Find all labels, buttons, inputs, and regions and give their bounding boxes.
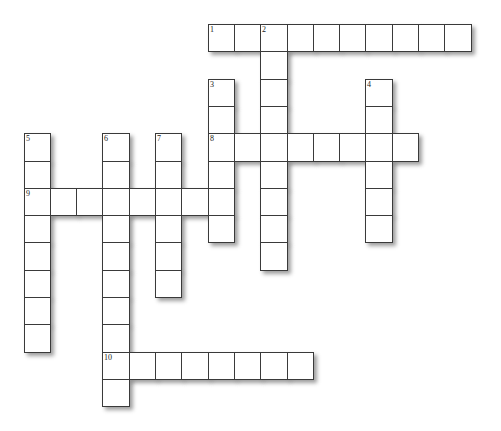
crossword-cell[interactable] <box>339 133 366 162</box>
crossword-cell[interactable] <box>260 215 288 243</box>
crossword-cell[interactable] <box>155 352 182 380</box>
crossword-cell[interactable] <box>24 161 51 189</box>
crossword-cell[interactable] <box>24 215 51 243</box>
crossword-cell[interactable] <box>24 324 51 353</box>
crossword-cell[interactable] <box>208 352 235 380</box>
crossword-cell[interactable] <box>208 24 235 52</box>
crossword-cell[interactable] <box>260 133 288 162</box>
crossword-cell[interactable] <box>365 215 393 243</box>
crossword-cell[interactable] <box>102 324 130 353</box>
crossword-cell[interactable] <box>102 270 130 298</box>
crossword-cell[interactable] <box>365 133 393 162</box>
crossword-cell[interactable] <box>208 215 235 243</box>
crossword-cell[interactable] <box>155 270 182 298</box>
crossword-cell[interactable] <box>155 242 182 271</box>
crossword-cell[interactable] <box>365 106 393 134</box>
crossword-cell[interactable] <box>260 352 288 380</box>
crossword-cell[interactable] <box>208 133 235 162</box>
crossword-cell[interactable] <box>260 79 288 107</box>
crossword-cell[interactable] <box>234 352 261 380</box>
crossword-cell[interactable] <box>24 188 51 216</box>
crossword-cell[interactable] <box>102 161 130 189</box>
crossword-grid: 12384596107 <box>0 0 501 431</box>
crossword-cell[interactable] <box>208 106 235 134</box>
crossword-cell[interactable] <box>392 24 419 52</box>
crossword-cell[interactable] <box>365 79 393 107</box>
crossword-cell[interactable] <box>181 188 209 216</box>
crossword-cell[interactable] <box>102 352 130 380</box>
crossword-cell[interactable] <box>155 161 182 189</box>
crossword-cell[interactable] <box>129 188 156 216</box>
crossword-cell[interactable] <box>102 215 130 243</box>
crossword-cell[interactable] <box>418 24 445 52</box>
crossword-cell[interactable] <box>155 188 182 216</box>
crossword-cell[interactable] <box>208 79 235 107</box>
crossword-cell[interactable] <box>234 24 261 52</box>
crossword-cell[interactable] <box>102 379 130 407</box>
crossword-cell[interactable] <box>444 24 472 52</box>
crossword-cell[interactable] <box>24 297 51 325</box>
crossword-cell[interactable] <box>339 24 366 52</box>
crossword-cell[interactable] <box>313 24 340 52</box>
crossword-cell[interactable] <box>234 133 261 162</box>
crossword-cell[interactable] <box>76 188 103 216</box>
crossword-cell[interactable] <box>208 188 235 216</box>
crossword-cell[interactable] <box>392 133 419 162</box>
crossword-cell[interactable] <box>208 161 235 189</box>
crossword-cell[interactable] <box>313 133 340 162</box>
crossword-cell[interactable] <box>260 106 288 134</box>
crossword-cell[interactable] <box>24 242 51 271</box>
crossword-cell[interactable] <box>102 297 130 325</box>
crossword-cell[interactable] <box>260 51 288 80</box>
crossword-cell[interactable] <box>102 133 130 162</box>
crossword-cell[interactable] <box>129 352 156 380</box>
crossword-cell[interactable] <box>260 242 288 271</box>
crossword-cell[interactable] <box>260 188 288 216</box>
crossword-cell[interactable] <box>24 270 51 298</box>
crossword-cell[interactable] <box>365 161 393 189</box>
crossword-cell[interactable] <box>155 133 182 162</box>
crossword-cell[interactable] <box>102 188 130 216</box>
crossword-cell[interactable] <box>260 24 288 52</box>
crossword-cell[interactable] <box>155 215 182 243</box>
crossword-cell[interactable] <box>287 352 314 380</box>
crossword-cell[interactable] <box>287 24 314 52</box>
crossword-cell[interactable] <box>260 161 288 189</box>
crossword-cell[interactable] <box>50 188 77 216</box>
crossword-cell[interactable] <box>365 188 393 216</box>
crossword-cell[interactable] <box>181 352 209 380</box>
crossword-cell[interactable] <box>24 133 51 162</box>
crossword-cell[interactable] <box>287 133 314 162</box>
crossword-cell[interactable] <box>365 24 393 52</box>
crossword-cell[interactable] <box>102 242 130 271</box>
